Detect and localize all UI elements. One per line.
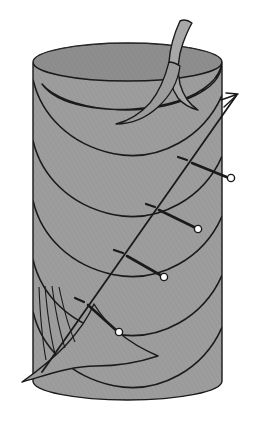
figure-root [0,0,257,429]
helicoid-diagram [0,0,257,429]
node-1-marker[interactable] [227,174,234,181]
cylinder-top-rim [33,43,222,81]
node-2-marker[interactable] [194,225,201,232]
node-3-marker[interactable] [160,273,167,280]
node-4-marker[interactable] [115,328,122,335]
